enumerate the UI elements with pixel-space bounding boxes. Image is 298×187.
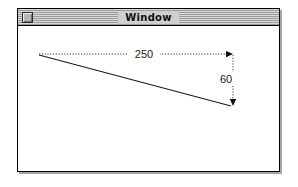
application-window[interactable]: Window [17, 8, 280, 172]
desktop-canvas: Window [0, 0, 298, 187]
window-title: Window [118, 11, 179, 24]
window-title-container: Window [18, 9, 279, 26]
window-titlebar[interactable]: Window [18, 9, 279, 26]
horizontal-measure-label: 250 [135, 48, 153, 60]
measured-line [39, 55, 231, 106]
window-content-area: 250 60 [18, 26, 279, 171]
close-box-icon[interactable] [22, 12, 33, 23]
dimension-diagram: 250 60 [18, 26, 279, 171]
vertical-measure-label: 60 [220, 73, 232, 85]
